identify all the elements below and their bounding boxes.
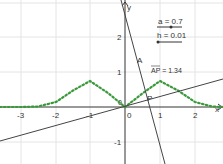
axes: [0, 0, 223, 164]
tick-y-1: 1: [117, 68, 122, 77]
tick-x-m3: -3: [17, 111, 25, 120]
tick-y-2: 2: [117, 33, 122, 42]
function-curve[interactable]: [0, 81, 223, 107]
slider-a-handle[interactable]: [170, 26, 173, 29]
slider-h-label: h = 0.01: [157, 31, 187, 40]
tick-origin: 0: [127, 111, 132, 120]
tick-y-m1: -1: [114, 138, 122, 147]
graphics-view[interactable]: -3 -2 -1 0 1 2 2 1 -1 y x 0 A P AP = 1.3…: [0, 0, 223, 164]
point-p-label: P: [147, 94, 152, 103]
point-a-label: A: [137, 56, 143, 65]
tick-x-1: 1: [158, 111, 163, 120]
grid: [0, 0, 223, 164]
slider-h-handle[interactable]: [157, 41, 160, 44]
shallow-line[interactable]: [0, 79, 223, 141]
slider-a-label: a = 0.7: [158, 17, 183, 26]
tick-x-m2: -2: [52, 111, 60, 120]
tick-x-2: 2: [193, 111, 198, 120]
ap-distance-label: AP = 1.34: [151, 67, 182, 74]
slider-a[interactable]: a = 0.7: [157, 17, 183, 29]
slider-h[interactable]: h = 0.01: [157, 31, 187, 44]
y-axis-label: y: [127, 3, 131, 12]
